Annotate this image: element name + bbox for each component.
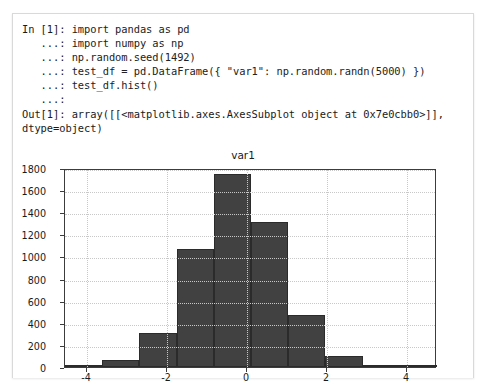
x-axis-tick-mark xyxy=(406,368,407,372)
histogram-bar xyxy=(177,249,214,367)
y-axis-tick-label: 400 xyxy=(28,318,46,329)
code-line: ...: import numpy as np xyxy=(22,36,474,50)
x-axis-tick-mark xyxy=(246,368,247,372)
y-axis-tick-mark xyxy=(60,257,64,258)
grid-line-horizontal xyxy=(65,347,435,348)
x-axis-tick-label: 2 xyxy=(323,372,329,383)
grid-line-horizontal xyxy=(65,325,435,326)
input-prompt: ...: xyxy=(22,65,72,77)
histogram-bar xyxy=(65,365,102,367)
y-axis-tick-label: 800 xyxy=(28,274,46,285)
histogram-bar xyxy=(288,315,325,367)
code-text: import numpy as np xyxy=(72,37,184,49)
input-prompt: ...: xyxy=(22,51,72,63)
y-axis-tick-label: 600 xyxy=(28,296,46,307)
code-line: In [1]: import pandas as pd xyxy=(22,22,474,36)
x-axis-tick-mark xyxy=(326,368,327,372)
y-axis-tick-mark xyxy=(60,324,64,325)
y-axis-tick-mark xyxy=(60,235,64,236)
matplotlib-figure: var1 020040060080010001200140016001800 -… xyxy=(13,148,473,378)
input-prompt: In [1]: xyxy=(22,23,72,35)
histogram-bar xyxy=(102,360,139,367)
output-line: dtype=object) xyxy=(22,121,474,135)
input-prompt: ...: xyxy=(22,79,72,91)
x-axis-tick-mark xyxy=(86,368,87,372)
y-axis-tick-label: 1000 xyxy=(22,252,46,263)
grid-line-vertical xyxy=(407,170,408,367)
histogram-bar xyxy=(214,174,251,367)
code-line: ...: xyxy=(22,92,474,106)
x-axis-tick-label: -2 xyxy=(161,372,171,383)
grid-line-horizontal xyxy=(65,281,435,282)
grid-line-horizontal xyxy=(65,303,435,304)
y-axis-tick-mark xyxy=(60,346,64,347)
histogram-bar xyxy=(251,222,288,367)
y-axis-tick-mark xyxy=(60,191,64,192)
y-axis-tick-label: 1600 xyxy=(22,186,46,197)
grid-line-horizontal xyxy=(65,214,435,215)
y-axis-tick-label: 1400 xyxy=(22,208,46,219)
y-axis-tick-label: 1800 xyxy=(22,164,46,175)
notebook-cell-card: In [1]: import pandas as pd ...: import … xyxy=(12,13,474,378)
grid-line-horizontal xyxy=(65,170,435,171)
output-text: Out[1]: array([[<matplotlib.axes.AxesSub… xyxy=(22,108,444,120)
grid-line-horizontal xyxy=(65,192,435,193)
x-axis-tick-label: -4 xyxy=(81,372,91,383)
chart-plot-area xyxy=(64,169,436,368)
chart-title: var1 xyxy=(13,149,473,161)
code-text: import pandas as pd xyxy=(72,23,190,35)
grid-line-vertical xyxy=(327,170,328,367)
x-axis-tick-label: 0 xyxy=(243,372,249,383)
code-line: ...: test_df = pd.DataFrame({ "var1": np… xyxy=(22,64,474,78)
grid-line-horizontal xyxy=(65,236,435,237)
input-prompt: ...: xyxy=(22,93,72,105)
grid-line-horizontal xyxy=(65,258,435,259)
histogram-bar xyxy=(139,333,176,367)
grid-line-vertical xyxy=(87,170,88,367)
y-axis-tick-mark xyxy=(60,213,64,214)
y-axis-tick-mark xyxy=(60,368,64,369)
code-line: ...: test_df.hist() xyxy=(22,78,474,92)
output-text: dtype=object) xyxy=(22,122,103,134)
grid-line-vertical xyxy=(167,170,168,367)
code-input-area[interactable]: In [1]: import pandas as pd ...: import … xyxy=(22,22,474,135)
code-text: test_df = pd.DataFrame({ "var1": np.rand… xyxy=(72,65,426,77)
grid-line-vertical xyxy=(247,170,248,367)
histogram-bar xyxy=(325,356,362,367)
histogram-bars xyxy=(65,170,435,367)
output-line: Out[1]: array([[<matplotlib.axes.AxesSub… xyxy=(22,107,474,121)
code-text: test_df.hist() xyxy=(72,79,159,91)
y-axis-tick-label: 1200 xyxy=(22,230,46,241)
y-axis-tick-mark xyxy=(60,280,64,281)
screenshot-root: In [1]: import pandas as pd ...: import … xyxy=(0,0,491,386)
y-axis-tick-mark xyxy=(60,302,64,303)
histogram-bar xyxy=(363,365,400,367)
x-axis-tick-label: 4 xyxy=(403,372,409,383)
code-line: ...: np.random.seed(1492) xyxy=(22,50,474,64)
x-axis-tick-mark xyxy=(166,368,167,372)
y-axis-tick-mark xyxy=(60,169,64,170)
y-axis-tick-label: 0 xyxy=(40,363,46,374)
y-axis-tick-label: 200 xyxy=(28,340,46,351)
histogram-bar xyxy=(400,365,437,367)
input-prompt: ...: xyxy=(22,37,72,49)
code-text: np.random.seed(1492) xyxy=(72,51,196,63)
